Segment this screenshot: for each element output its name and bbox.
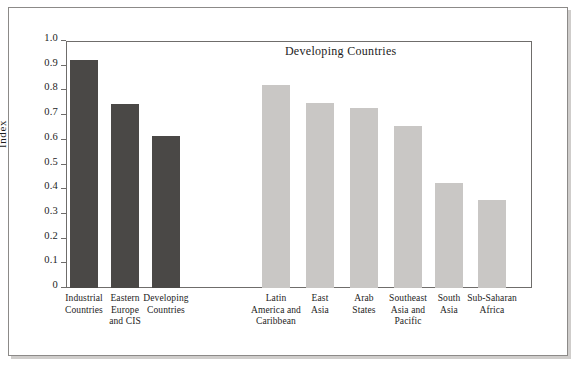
- y-axis-tick-label: 0.6: [44, 131, 58, 142]
- y-axis-tick-label: 0: [53, 279, 58, 290]
- x-axis-category-label: Developing Countries: [121, 293, 211, 316]
- y-axis-title: Index: [0, 120, 8, 148]
- y-axis-tick-label: 0.8: [44, 81, 58, 92]
- chart-screenshot: 1.00.90.80.70.60.50.40.30.20.10 Index De…: [0, 0, 577, 366]
- y-axis-tick-label: 1.0: [44, 32, 58, 43]
- bar: [394, 126, 422, 288]
- y-axis-tick-label: 0.3: [44, 205, 58, 216]
- y-axis-tick-label: 0.1: [44, 254, 58, 265]
- y-axis-tick-label: 0.7: [44, 106, 58, 117]
- y-axis: 1.00.90.80.70.60.50.40.30.20.10: [0, 41, 66, 289]
- y-axis-tick-label: 0.5: [44, 156, 58, 167]
- bar: [70, 60, 98, 288]
- bar: [111, 104, 139, 288]
- x-axis-category-label: Sub-Saharan Africa: [447, 293, 537, 316]
- bar: [478, 200, 506, 288]
- bar: [350, 108, 378, 288]
- bar: [435, 183, 463, 288]
- y-axis-tick-label: 0.2: [44, 230, 58, 241]
- bar: [262, 85, 290, 288]
- bar: [306, 103, 334, 288]
- bar: [152, 136, 180, 288]
- group-annotation-developing-countries: Developing Countries: [285, 44, 397, 59]
- y-axis-tick-label: 0.9: [44, 57, 58, 68]
- y-axis-tick-label: 0.4: [44, 180, 58, 191]
